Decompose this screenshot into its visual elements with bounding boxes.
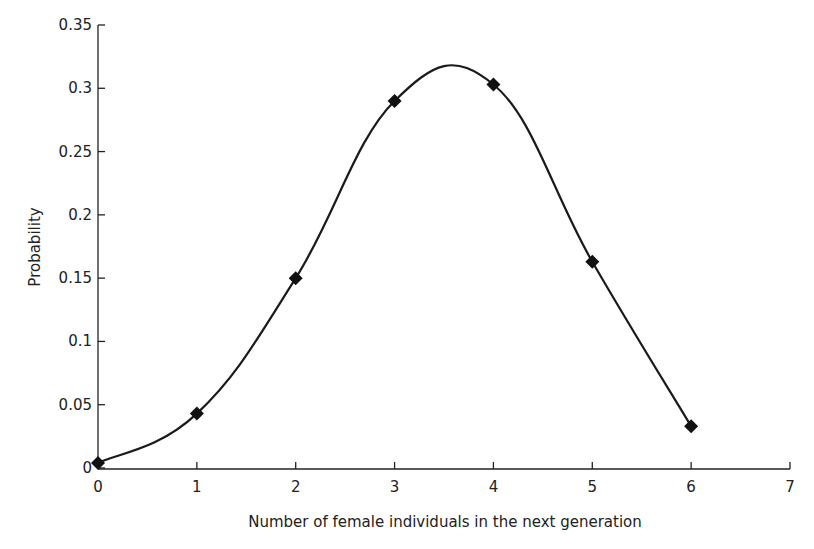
y-tick-label: 0.2 xyxy=(68,206,92,224)
x-axis-ticks: 01234567 xyxy=(93,462,795,496)
x-tick-label: 6 xyxy=(686,478,696,496)
probability-chart: 00.050.10.150.20.250.30.35 01234567 Numb… xyxy=(0,0,814,549)
y-tick-label: 0.15 xyxy=(59,269,92,287)
y-tick-label: 0.35 xyxy=(59,16,92,34)
y-tick-label: 0 xyxy=(82,459,92,477)
axes xyxy=(98,25,790,469)
data-point-markers xyxy=(91,77,698,469)
x-tick-label: 0 xyxy=(93,478,103,496)
probability-curve xyxy=(98,65,691,463)
diamond-marker xyxy=(684,419,698,433)
x-tick-label: 7 xyxy=(785,478,795,496)
y-tick-label: 0.3 xyxy=(68,79,92,97)
x-tick-label: 1 xyxy=(192,478,202,496)
y-tick-label: 0.25 xyxy=(59,143,92,161)
x-tick-label: 3 xyxy=(390,478,400,496)
x-axis-label: Number of female individuals in the next… xyxy=(248,513,642,531)
diamond-marker xyxy=(289,271,303,285)
y-tick-label: 0.05 xyxy=(59,396,92,414)
x-tick-label: 5 xyxy=(588,478,598,496)
x-tick-label: 4 xyxy=(489,478,499,496)
y-tick-label: 0.1 xyxy=(68,332,92,350)
y-axis-label: Probability xyxy=(26,207,44,286)
x-tick-label: 2 xyxy=(291,478,301,496)
diamond-marker xyxy=(585,255,599,269)
